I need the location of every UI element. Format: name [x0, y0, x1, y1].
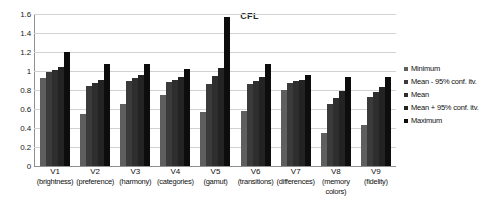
x-axis-category-name: (memory colors): [316, 177, 356, 197]
x-axis-category-name: (gamut): [195, 177, 235, 187]
legend-label: Minimum: [411, 64, 440, 73]
bar: [345, 77, 351, 166]
legend-item-2[interactable]: Mean: [404, 88, 499, 101]
legend-item-1[interactable]: Mean - 95% conf. itv.: [404, 75, 499, 88]
y-axis-tick-6: 1.2: [3, 48, 31, 57]
bar: [104, 64, 110, 166]
x-axis-category-name: (transitions): [236, 177, 276, 187]
legend-label: Mean: [411, 90, 429, 99]
y-axis-tick-4: 0.8: [3, 86, 31, 95]
x-axis-label-v4: V4(categories): [155, 167, 195, 197]
bar-group-v9: [356, 14, 396, 166]
bar: [385, 77, 391, 166]
x-axis-label-v7: V7(differences): [276, 167, 316, 197]
x-axis-category-name: (harmony): [115, 177, 155, 187]
x-axis-label-v1: V1(brightness): [35, 167, 75, 197]
legend-swatch-icon: [404, 119, 408, 123]
x-axis-label-v5: V5(gamut): [195, 167, 235, 197]
plot-area: [34, 14, 396, 166]
x-axis-label-v3: V3(harmony): [115, 167, 155, 197]
x-axis-category-code: V6: [236, 167, 276, 177]
x-axis-category-name: (preference): [75, 177, 115, 187]
bar: [64, 52, 70, 166]
x-axis-category-code: V2: [75, 167, 115, 177]
legend-item-0[interactable]: Minimum: [404, 62, 499, 75]
y-axis-tick-7: 1.4: [3, 29, 31, 38]
y-axis-tick-8: 1.6: [3, 10, 31, 19]
y-axis-tick-1: 0.2: [3, 143, 31, 152]
legend-label: Mean + 95% conf. itv.: [411, 103, 479, 112]
bar-group-v2: [75, 14, 115, 166]
x-axis-category-code: V8: [316, 167, 356, 177]
x-axis-category-name: (brightness): [35, 177, 75, 187]
legend-label: Maximum: [411, 116, 442, 125]
x-axis-category-code: V3: [115, 167, 155, 177]
bar-group-v5: [195, 14, 235, 166]
x-axis-category-code: V4: [155, 167, 195, 177]
y-axis-tick-labels: 00.20.40.60.811.21.41.6: [0, 14, 31, 166]
x-axis-label-v9: V9(fidelity): [356, 167, 396, 197]
legend-item-3[interactable]: Mean + 95% conf. itv.: [404, 101, 499, 114]
chart-screenshot: CFL 00.20.40.60.811.21.41.6 V1(brightnes…: [0, 0, 499, 202]
chart-legend: MinimumMean - 95% conf. itv.MeanMean + 9…: [404, 62, 499, 127]
x-axis-label-v6: V6(transitions): [236, 167, 276, 197]
y-axis-tick-3: 0.6: [3, 105, 31, 114]
legend-item-4[interactable]: Maximum: [404, 114, 499, 127]
bar-group-v8: [316, 14, 356, 166]
bar-group-v4: [155, 14, 195, 166]
bar: [265, 64, 271, 166]
x-axis-label-v2: V2(preference): [75, 167, 115, 197]
bar: [184, 69, 190, 166]
legend-swatch-icon: [404, 80, 408, 84]
x-axis-category-code: V9: [356, 167, 396, 177]
x-axis-category-code: V1: [35, 167, 75, 177]
x-axis-category-name: (categories): [155, 177, 195, 187]
bar: [224, 17, 230, 166]
x-axis-category-name: (differences): [276, 177, 316, 187]
bar-group-v1: [35, 14, 75, 166]
y-axis-tick-2: 0.4: [3, 124, 31, 133]
bar-group-v6: [236, 14, 276, 166]
legend-label: Mean - 95% conf. itv.: [411, 77, 477, 86]
x-axis-category-code: V5: [195, 167, 235, 177]
y-axis-tick-0: 0: [3, 162, 31, 171]
legend-swatch-icon: [404, 93, 408, 97]
x-axis-tick-labels: V1(brightness)V2(preference)V3(harmony)V…: [35, 167, 396, 197]
y-axis-tick-5: 1: [3, 67, 31, 76]
x-axis-label-v8: V8(memory colors): [316, 167, 356, 197]
x-axis-category-code: V7: [276, 167, 316, 177]
bar: [305, 75, 311, 166]
x-axis-category-name: (fidelity): [356, 177, 396, 187]
bar-group-v3: [115, 14, 155, 166]
bar-group-v7: [276, 14, 316, 166]
bar-groups: [35, 14, 396, 166]
bar: [144, 64, 150, 166]
legend-swatch-icon: [404, 67, 408, 71]
legend-swatch-icon: [404, 106, 408, 110]
